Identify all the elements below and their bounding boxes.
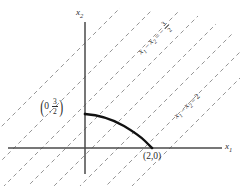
point-label-x-intercept: (2,0) (143, 152, 161, 162)
fraction-numerator: 3 (52, 98, 58, 106)
open-paren: ( (40, 99, 44, 115)
x-axis-label: x1 (225, 142, 232, 153)
level-set-line (86, 46, 240, 186)
endpoint-y-intercept (84, 113, 87, 116)
close-paren: ) (60, 99, 64, 115)
point-label-y-intercept: ( 0 , 3 2 ) (39, 98, 65, 115)
y-axis-label-subscript: 2 (80, 12, 83, 19)
curve-endpoints (84, 113, 154, 150)
level-set-line (0, 10, 152, 186)
endpoint-x-intercept (151, 147, 154, 150)
fraction-denominator: 2 (52, 108, 58, 116)
x-axis-label-subscript: 1 (229, 146, 232, 153)
plot-svg (0, 0, 240, 186)
figure-canvas: x2 x1 ( 0 , 3 2 ) (2,0) x1 − x2 = − 3 2 … (0, 0, 240, 186)
y-axis-label: x2 (76, 8, 83, 19)
level-set-lines (0, 8, 240, 186)
y-intercept-fraction: 3 2 (52, 98, 58, 115)
level-set-line (110, 60, 240, 186)
